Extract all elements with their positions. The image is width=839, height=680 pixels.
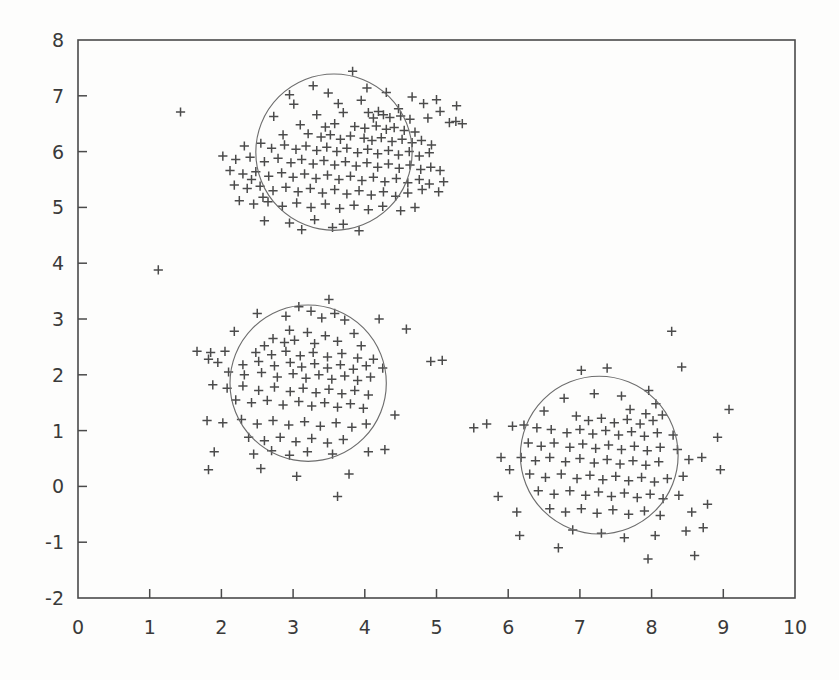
x-tick-label: 7 (574, 616, 586, 638)
x-tick-label: 8 (646, 616, 658, 638)
x-tick-label: 9 (717, 616, 729, 638)
y-tick-label: 5 (52, 196, 64, 218)
x-tick-label: 0 (72, 616, 84, 638)
x-tick-label: 2 (215, 616, 227, 638)
y-tick-label: 1 (52, 420, 64, 442)
y-tick-label: 0 (52, 475, 64, 497)
y-tick-label: 3 (52, 308, 64, 330)
y-tick-label: 6 (52, 141, 64, 163)
x-tick-label: 6 (502, 616, 514, 638)
chart-canvas: -2-1012345678012345678910 (0, 0, 839, 680)
x-tick-label: 10 (783, 616, 807, 638)
y-tick-label: 8 (52, 29, 64, 51)
x-tick-label: 5 (430, 616, 442, 638)
y-tick-label: 7 (52, 85, 64, 107)
scatter-plot-figure: -2-1012345678012345678910 (0, 0, 839, 680)
y-tick-label: -2 (45, 587, 64, 609)
y-tick-label: -1 (45, 531, 64, 553)
x-tick-label: 1 (144, 616, 156, 638)
x-tick-label: 3 (287, 616, 299, 638)
y-tick-label: 4 (52, 252, 64, 274)
x-tick-label: 4 (359, 616, 371, 638)
y-tick-label: 2 (52, 364, 64, 386)
chart-background (0, 0, 839, 680)
